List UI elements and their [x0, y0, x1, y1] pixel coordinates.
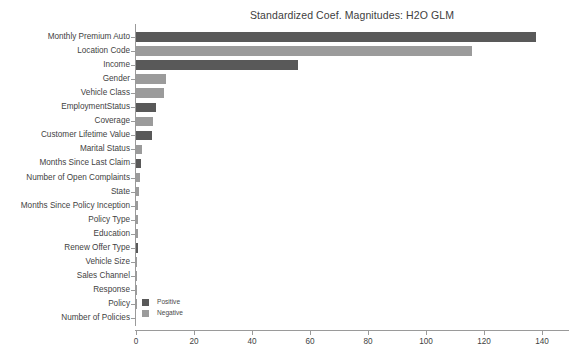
x-axis-tick-mark — [194, 331, 195, 335]
bar-row — [136, 257, 542, 267]
x-axis-tick-mark — [310, 331, 311, 335]
y-axis-tick-label: EmploymentStatus — [0, 102, 130, 112]
bar — [136, 145, 142, 155]
y-axis-tick-mark — [131, 318, 135, 319]
bar-row — [136, 60, 542, 70]
y-axis-tick-label: Policy Type — [0, 215, 130, 225]
x-axis-tick-label: 0 — [116, 337, 156, 346]
bar — [136, 215, 138, 225]
bar-row — [136, 103, 542, 113]
chart-title: Standardized Coef. Magnitudes: H2O GLM — [0, 9, 574, 21]
y-axis-tick-label: Renew Offer Type — [0, 243, 130, 253]
bar-row — [136, 145, 542, 155]
bar-row — [136, 187, 542, 197]
y-axis-tick-label: Policy — [0, 299, 130, 309]
y-axis-tick-mark — [131, 262, 135, 263]
bar-row — [136, 271, 542, 281]
bar — [136, 88, 164, 98]
x-axis-tick-label: 40 — [232, 337, 272, 346]
bar-row — [136, 131, 542, 141]
bar-row — [136, 173, 542, 183]
bar-row — [136, 201, 542, 211]
bar — [136, 74, 166, 84]
y-axis-tick-label: Location Code — [0, 46, 130, 56]
bar — [136, 46, 472, 56]
bar-row — [136, 229, 542, 239]
bar — [136, 131, 152, 141]
chart-figure: Standardized Coef. Magnitudes: H2O GLM M… — [0, 0, 574, 358]
bar-row — [136, 243, 542, 253]
x-axis-tick-mark — [368, 331, 369, 335]
y-axis-tick-mark — [131, 234, 135, 235]
y-axis-tick-mark — [131, 149, 135, 150]
x-axis-tick-mark — [136, 331, 137, 335]
legend-swatch — [142, 299, 149, 306]
bar-row — [136, 159, 542, 169]
bar — [136, 60, 298, 70]
y-axis-tick-label: Marital Status — [0, 144, 130, 154]
legend-label: Positive — [157, 299, 180, 306]
y-axis-tick-mark — [131, 276, 135, 277]
bar — [136, 32, 536, 42]
bar-row — [136, 46, 542, 56]
y-axis-tick-mark — [131, 37, 135, 38]
x-axis-tick-label: 20 — [174, 337, 214, 346]
bar — [136, 243, 138, 253]
bar — [136, 103, 156, 113]
x-axis-line — [135, 330, 569, 331]
legend-entry: Negative — [142, 308, 183, 319]
x-axis-tick-mark — [484, 331, 485, 335]
y-axis-tick-mark — [131, 206, 135, 207]
bar — [136, 285, 137, 295]
x-axis-tick-label: 140 — [522, 337, 562, 346]
y-axis-tick-label: Months Since Policy Inception — [0, 201, 130, 211]
bar-row — [136, 215, 542, 225]
y-axis-tick-mark — [131, 290, 135, 291]
bar — [136, 271, 137, 281]
legend-entry: Positive — [142, 297, 183, 308]
x-axis-tick-mark — [542, 331, 543, 335]
bar — [136, 257, 137, 267]
y-axis-tick-mark — [131, 178, 135, 179]
y-axis-tick-mark — [131, 79, 135, 80]
legend-label: Negative — [157, 310, 183, 317]
bar-row — [136, 285, 542, 295]
bar — [136, 117, 153, 127]
y-axis-tick-label: Months Since Last Claim — [0, 158, 130, 168]
y-axis-tick-mark — [131, 65, 135, 66]
y-axis-tick-mark — [131, 192, 135, 193]
y-axis-tick-mark — [131, 304, 135, 305]
x-axis-tick-mark — [252, 331, 253, 335]
legend-swatch — [142, 310, 149, 317]
bar — [136, 229, 138, 239]
y-axis-tick-label: State — [0, 187, 130, 197]
y-axis-tick-label: Income — [0, 60, 130, 70]
bar — [136, 299, 137, 309]
y-axis-tick-mark — [131, 163, 135, 164]
y-axis-tick-label: Coverage — [0, 116, 130, 126]
y-axis-tick-label: Customer Lifetime Value — [0, 130, 130, 140]
y-axis-tick-mark — [131, 51, 135, 52]
x-axis-tick-label: 100 — [406, 337, 446, 346]
bar-row — [136, 117, 542, 127]
y-axis-tick-label: Sales Channel — [0, 271, 130, 281]
y-axis-tick-mark — [131, 107, 135, 108]
bar-row — [136, 32, 542, 42]
x-axis-tick-label: 60 — [290, 337, 330, 346]
chart-legend: PositiveNegative — [142, 297, 183, 319]
x-axis-tick-mark — [426, 331, 427, 335]
bar-row — [136, 299, 542, 309]
y-axis-tick-mark — [131, 248, 135, 249]
bar — [136, 159, 141, 169]
y-axis-tick-label: Monthly Premium Auto — [0, 32, 130, 42]
y-axis-tick-label: Vehicle Size — [0, 257, 130, 267]
bar-row — [136, 74, 542, 84]
bar — [136, 173, 140, 183]
bar — [136, 201, 138, 211]
bar — [136, 187, 139, 197]
x-axis-tick-label: 80 — [348, 337, 388, 346]
bar-row — [136, 88, 542, 98]
x-axis-tick-label: 120 — [464, 337, 504, 346]
y-axis-tick-label: Education — [0, 229, 130, 239]
y-axis-tick-mark — [131, 93, 135, 94]
